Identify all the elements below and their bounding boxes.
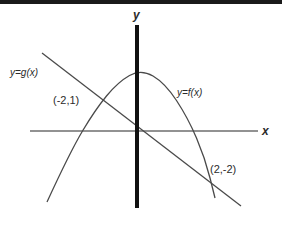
curve-label-f: y=f(x) <box>177 88 202 98</box>
x-axis-label: x <box>262 125 269 137</box>
y-axis-label: y <box>133 9 140 21</box>
coordinate-plot <box>0 0 282 225</box>
point-label-right: (2,-2) <box>210 164 236 175</box>
graph-figure: y x y=g(x) y=f(x) (-2,1) (2,-2) <box>0 0 282 225</box>
curve-g <box>42 53 241 206</box>
point-label-left: (-2,1) <box>53 95 79 106</box>
curve-label-g: y=g(x) <box>10 68 38 78</box>
